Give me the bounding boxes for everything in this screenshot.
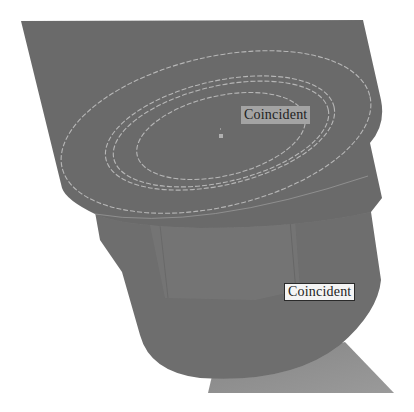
body-face-band [150, 220, 300, 300]
3d-viewport[interactable]: Coincident Coincident [0, 0, 414, 412]
center-point-tick [220, 128, 221, 130]
center-point[interactable] [219, 134, 223, 138]
top-face[interactable] [21, 20, 382, 228]
coincident-label-body[interactable]: Coincident [284, 283, 355, 301]
part-model[interactable] [0, 0, 414, 412]
coincident-label-top[interactable]: Coincident [241, 106, 310, 124]
